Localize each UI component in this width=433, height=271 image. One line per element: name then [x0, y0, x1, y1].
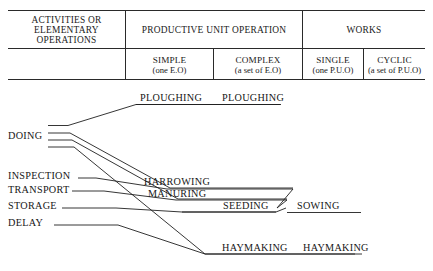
diagram-label-harrowing: HARROWING — [144, 177, 210, 187]
figure-root: ACTIVITIES OR ELEMENTARY OPERATIONS PROD… — [0, 0, 433, 271]
link-seeding-to-sowing — [276, 208, 286, 212]
diagram-label-ploughing-work: PLOUGHING — [222, 93, 284, 103]
diagram-label-ploughing-simple: PLOUGHING — [140, 93, 202, 103]
diagram-connectors — [0, 0, 433, 271]
diagram-label-sowing-work: SOWING — [297, 201, 340, 211]
diagram-label-transport: TRANSPORT — [8, 185, 70, 195]
diagram-label-seeding: SEEDING — [223, 201, 269, 211]
diagram-label-delay: DELAY — [8, 218, 43, 228]
diagram-label-manuring: MANURING — [148, 189, 206, 199]
diagram-label-inspection: INSPECTION — [8, 171, 70, 181]
diagram-label-haymaking-work: HAYMAKING — [303, 243, 369, 253]
diagram-label-doing: DOING — [8, 131, 42, 141]
connector-delay — [54, 225, 205, 254]
diagram-label-haymaking-simple: HAYMAKING — [222, 243, 288, 253]
diagram-label-storage: STORAGE — [8, 201, 57, 211]
connector-doing-1 — [48, 105, 280, 126]
